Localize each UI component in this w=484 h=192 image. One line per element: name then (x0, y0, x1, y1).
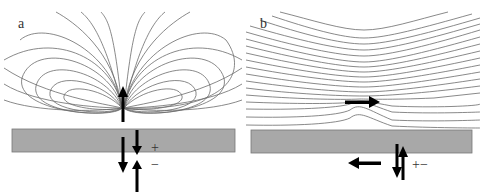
field-lines-b (246, 12, 480, 128)
panel-a-graphic (0, 0, 242, 192)
panel-a: a + − (0, 0, 242, 192)
surface-b (251, 130, 472, 153)
panel-a-label: a (18, 16, 24, 32)
image-arrow-up-small-a (132, 160, 142, 192)
plus-sign: + (151, 141, 159, 155)
panel-b-label: b (260, 16, 267, 32)
plus-minus-sign: +− (412, 158, 428, 172)
minus-sign: − (151, 158, 159, 172)
panel-b: b +− (242, 0, 484, 192)
image-arrow-left-b (348, 157, 381, 169)
panel-b-graphic (242, 0, 484, 192)
